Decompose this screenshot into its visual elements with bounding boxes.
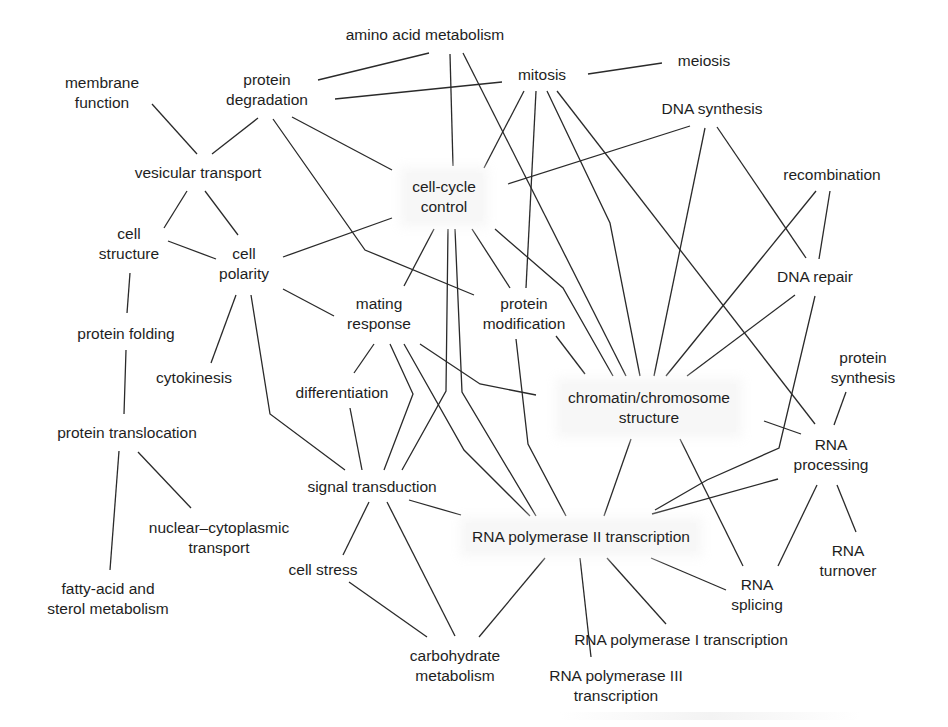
node-label: protein	[831, 348, 896, 368]
node-label: control	[412, 197, 476, 217]
node-label: function	[65, 93, 139, 113]
edge-protein-translocation-to-fatty-acid-sterol-metabolism	[110, 451, 119, 570]
edge-rna-pol-ii-transcription-to-rna-splicing	[651, 558, 726, 590]
node-rna-splicing: RNAsplicing	[731, 575, 783, 615]
edge-mitosis-to-rna-processing	[557, 91, 815, 424]
node-label: membrane	[65, 73, 139, 93]
node-chromatin-structure: chromatin/chromosomestructure	[562, 384, 736, 432]
node-meiosis: meiosis	[678, 51, 731, 71]
node-rna-pol-iii-transcription: RNA polymerase IIItranscription	[549, 666, 683, 706]
node-label: processing	[794, 455, 869, 475]
node-label: cell stress	[289, 560, 358, 580]
node-label: protein	[226, 70, 308, 90]
node-cell-cycle-control: cell-cyclecontrol	[406, 173, 482, 221]
edge-cell-structure-to-cell-polarity	[168, 241, 216, 259]
node-label: nuclear–cytoplasmic	[149, 518, 289, 538]
edge-vesicular-transport-to-cell-structure	[164, 191, 187, 228]
edge-dna-synthesis-to-dna-repair	[717, 127, 806, 258]
edge-signal-transduction-to-cell-stress	[343, 502, 369, 555]
edge-cell-polarity-to-mating-response	[283, 289, 334, 316]
node-rna-pol-ii-transcription: RNA polymerase II transcription	[466, 523, 696, 551]
edge-cell-structure-to-protein-folding	[127, 273, 130, 313]
node-label: protein folding	[77, 324, 174, 344]
edge-protein-folding-to-protein-translocation	[124, 350, 126, 414]
node-label: mitosis	[518, 65, 566, 85]
node-label: turnover	[820, 561, 877, 581]
node-label: cell-cycle	[412, 177, 476, 197]
node-label: signal transduction	[307, 477, 436, 497]
edge-cell-cycle-control-to-signal-transduction	[402, 229, 448, 470]
node-protein-translocation: protein translocation	[57, 423, 197, 443]
edge-dna-synthesis-to-cell-cycle-control	[508, 126, 690, 184]
edge-rna-pol-ii-transcription-to-carbohydrate-metabolism	[479, 558, 545, 637]
node-protein-folding: protein folding	[77, 324, 174, 344]
edge-cell-polarity-to-cytokinesis	[211, 295, 236, 363]
edge-recombination-to-dna-repair	[819, 191, 830, 259]
node-rna-pol-i-transcription: RNA polymerase I transcription	[574, 630, 788, 650]
node-label: RNA	[820, 541, 877, 561]
node-mating-response: matingresponse	[347, 294, 411, 334]
node-label: vesicular transport	[135, 163, 262, 183]
node-cell-structure: cellstructure	[99, 224, 159, 264]
node-label: amino acid metabolism	[346, 25, 505, 45]
node-label: protein translocation	[57, 423, 197, 443]
edge-rna-processing-to-rna-turnover	[837, 485, 856, 532]
node-label: cell	[99, 224, 159, 244]
edge-vesicular-transport-to-cell-polarity	[205, 191, 238, 235]
node-label: recombination	[783, 165, 880, 185]
node-label: fatty-acid and	[47, 579, 168, 599]
node-cell-stress: cell stress	[289, 560, 358, 580]
edge-rna-pol-ii-transcription-to-rna-pol-i-transcription	[607, 558, 666, 624]
edge-mitosis-to-meiosis	[588, 63, 662, 74]
node-label: metabolism	[410, 666, 500, 686]
node-dna-repair: DNA repair	[777, 267, 853, 287]
node-label: RNA polymerase II transcription	[472, 527, 690, 547]
node-nuclear-cytoplasmic-transport: nuclear–cytoplasmictransport	[149, 518, 289, 558]
edge-chromatin-structure-to-rna-pol-ii-transcription	[604, 439, 631, 516]
node-protein-degradation: proteindegradation	[226, 70, 308, 110]
edge-mating-response-to-differentiation	[354, 344, 374, 373]
node-label: polarity	[219, 264, 269, 284]
node-cytokinesis: cytokinesis	[156, 368, 232, 388]
node-label: mating	[347, 294, 411, 314]
edge-mitosis-to-cell-cycle-control	[484, 91, 524, 168]
edge-mating-response-to-signal-transduction	[384, 344, 413, 470]
edge-protein-degradation-to-cell-cycle-control	[292, 117, 392, 170]
edge-differentiation-to-signal-transduction	[350, 408, 362, 470]
edge-amino-acid-metabolism-to-cell-cycle-control	[450, 54, 453, 166]
node-carbohydrate-metabolism: carbohydratemetabolism	[410, 646, 500, 686]
node-label: splicing	[731, 595, 783, 615]
node-cell-polarity: cellpolarity	[219, 244, 269, 284]
node-label: transcription	[549, 686, 683, 706]
edge-protein-modification-to-chromatin-structure	[556, 336, 585, 374]
node-label: RNA	[731, 575, 783, 595]
node-fatty-acid-sterol-metabolism: fatty-acid andsterol metabolism	[47, 579, 168, 619]
edge-cell-cycle-control-to-mating-response	[404, 229, 434, 286]
node-label: sterol metabolism	[47, 599, 168, 619]
edge-mitosis-to-protein-degradation	[335, 82, 502, 99]
edge-amino-acid-metabolism-to-protein-degradation	[318, 53, 429, 80]
node-differentiation: differentiation	[296, 383, 389, 403]
node-protein-modification: proteinmodification	[483, 294, 566, 334]
node-mitosis: mitosis	[518, 65, 566, 85]
node-label: transport	[149, 538, 289, 558]
node-label: RNA	[794, 435, 869, 455]
edge-mating-response-to-chromatin-structure	[420, 344, 536, 395]
node-label: degradation	[226, 90, 308, 110]
node-dna-synthesis: DNA synthesis	[662, 99, 763, 119]
edge-cell-cycle-control-to-cell-polarity	[283, 218, 392, 257]
node-label: structure	[568, 408, 730, 428]
node-amino-acid-metabolism: amino acid metabolism	[346, 25, 505, 45]
node-label: chromatin/chromosome	[568, 388, 730, 408]
edge-protein-modification-to-rna-pol-ii-transcription	[516, 339, 566, 516]
node-label: modification	[483, 314, 566, 334]
node-rna-processing: RNAprocessing	[794, 435, 869, 475]
edge-cell-cycle-control-to-rna-pol-ii-transcription	[455, 229, 536, 516]
node-label: DNA synthesis	[662, 99, 763, 119]
node-label: differentiation	[296, 383, 389, 403]
node-label: DNA repair	[777, 267, 853, 287]
node-rna-turnover: RNAturnover	[820, 541, 877, 581]
edge-dna-synthesis-to-chromatin-structure	[654, 128, 705, 376]
node-label: structure	[99, 244, 159, 264]
faint-caption-artifact	[560, 712, 860, 720]
